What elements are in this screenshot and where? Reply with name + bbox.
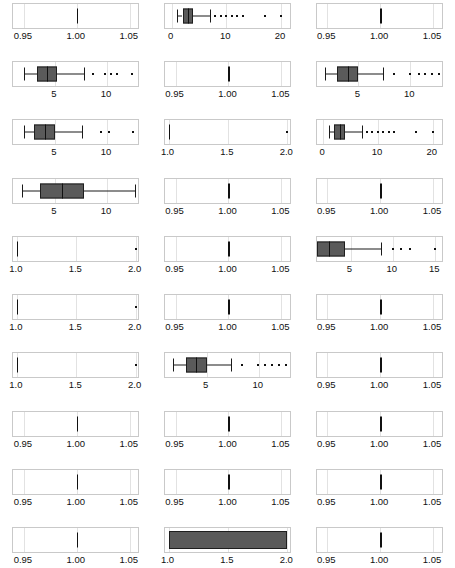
panel-swrc-idLncs: 0.951.001.05	[303, 349, 455, 407]
plot-area	[12, 294, 139, 320]
outlier-point	[371, 131, 373, 133]
x-tick-label: 2.0	[128, 321, 141, 333]
x-axis: 0.951.001.05	[316, 496, 443, 510]
x-tick-label: 1.05	[271, 263, 290, 275]
x-tick-label: 1.0	[161, 554, 174, 566]
x-axis: 0.951.001.05	[316, 379, 443, 393]
whisker-upper	[358, 74, 383, 75]
x-tick-label: 1.00	[67, 554, 86, 566]
x-axis: 1.01.52.0	[12, 379, 139, 393]
median-line	[77, 9, 78, 24]
x-tick-label: 2.0	[128, 263, 141, 275]
whisker-cap-upper	[82, 126, 83, 139]
x-tick-label: 1.00	[370, 379, 389, 391]
outlier-point	[366, 131, 368, 133]
x-tick-label: 1.05	[423, 438, 442, 450]
x-axis: 1.01.52.0	[12, 263, 139, 277]
gridline	[433, 528, 434, 552]
x-tick-label: 0.95	[14, 554, 33, 566]
panel-dce-subject: 510	[0, 58, 152, 116]
x-tick-label: 0.95	[317, 321, 336, 333]
whisker-upper	[345, 132, 361, 133]
x-tick-label: 0.95	[165, 205, 184, 217]
whisker-cap-upper	[135, 184, 136, 197]
panel-rdf-type: 0.951.001.05	[303, 175, 455, 233]
median-line	[228, 183, 229, 198]
outlier-point	[264, 364, 266, 366]
x-axis: 0.951.001.05	[164, 205, 291, 219]
x-tick-label: 10	[101, 205, 112, 217]
x-tick-label: 1.0	[9, 379, 22, 391]
outlier-point	[431, 73, 433, 75]
x-tick-label: 1.5	[220, 554, 233, 566]
gridline	[433, 412, 434, 436]
gridline	[130, 412, 131, 436]
median-line	[188, 9, 189, 24]
x-tick-label: 1.05	[271, 321, 290, 333]
x-tick-label: 5	[51, 205, 56, 217]
x-tick-label: 1.05	[423, 205, 442, 217]
gridline	[323, 120, 324, 144]
x-tick-label: 1.05	[271, 496, 290, 508]
outlier-point	[377, 131, 379, 133]
x-tick-label: 1.00	[370, 205, 389, 217]
x-tick-label: 5	[347, 263, 352, 275]
gridline	[287, 528, 288, 552]
whisker-upper	[55, 132, 82, 133]
median-line	[17, 300, 18, 315]
whisker-cap-upper	[362, 126, 363, 139]
x-tick-label: 2.0	[128, 379, 141, 391]
x-tick-label: 5	[355, 88, 360, 100]
outlier-point	[415, 131, 417, 133]
x-tick-label: 1.05	[423, 554, 442, 566]
x-tick-label: 0.95	[165, 496, 184, 508]
panel-foaf-topic: 510	[0, 175, 152, 233]
outlier-point	[438, 73, 440, 75]
whisker-cap-upper	[84, 68, 85, 81]
outlier-point	[135, 306, 137, 308]
outlier-point	[278, 364, 280, 366]
whisker-lower	[173, 365, 185, 366]
outlier-point	[225, 15, 227, 17]
median-line	[380, 474, 381, 489]
gridline	[107, 62, 108, 86]
gridline	[176, 237, 177, 261]
gridline	[130, 4, 131, 28]
median-line	[196, 358, 197, 373]
boxplot-grid: 0.951.001.05010200.951.001.055100.951.00…	[0, 0, 455, 568]
whisker-cap-lower	[325, 68, 326, 81]
whisker-upper	[207, 365, 231, 366]
x-tick-label: 1.5	[69, 321, 82, 333]
outlier-point	[214, 15, 216, 17]
panel-dcterms-creator: 510	[303, 58, 455, 116]
gridline	[76, 295, 77, 319]
outlier-point	[242, 15, 244, 17]
x-tick-label: 1.0	[9, 321, 22, 333]
panel-swrc-year: 0.951.001.05	[303, 524, 455, 568]
x-tick-label: 1.00	[218, 263, 237, 275]
gridline	[172, 4, 173, 28]
plot-area	[164, 294, 291, 320]
median-line	[348, 67, 349, 82]
outlier-point	[92, 73, 94, 75]
panel-dce-identifier: 0.951.001.05	[303, 0, 455, 58]
x-tick-label: 0.95	[14, 30, 33, 42]
panel-bibo-authorList: 0.951.001.05	[0, 0, 152, 58]
gridline	[281, 179, 282, 203]
x-axis: 0.951.001.05	[316, 554, 443, 568]
outlier-point	[418, 73, 420, 75]
x-axis: 510	[164, 379, 291, 393]
plot-area	[164, 469, 291, 495]
x-tick-label: 1.00	[370, 554, 389, 566]
median-line	[380, 9, 381, 24]
outlier-point	[388, 131, 390, 133]
x-tick-label: 5	[51, 146, 56, 158]
gridline	[176, 62, 177, 86]
x-axis: 0.951.001.05	[12, 554, 139, 568]
median-line	[340, 125, 341, 140]
outlier-point	[393, 131, 395, 133]
median-line	[17, 241, 18, 256]
x-tick-label: 10	[101, 146, 112, 158]
plot-area	[316, 119, 443, 145]
outlier-point	[286, 131, 288, 133]
